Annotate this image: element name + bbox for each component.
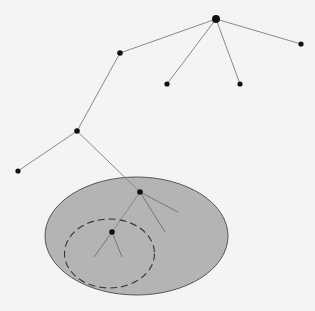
tree-diagram xyxy=(0,0,315,311)
node-node-b xyxy=(74,128,80,134)
shaded-region-ellipse xyxy=(45,177,228,295)
node-leaf-far-left xyxy=(15,168,20,173)
node-leaf-mid-left xyxy=(164,81,169,86)
node-node-d xyxy=(109,229,115,235)
node-leaf-mid-right xyxy=(237,81,242,86)
node-leaf-right xyxy=(298,41,303,46)
node-root xyxy=(212,15,220,23)
node-node-c xyxy=(137,189,143,195)
node-node-a xyxy=(117,50,123,56)
